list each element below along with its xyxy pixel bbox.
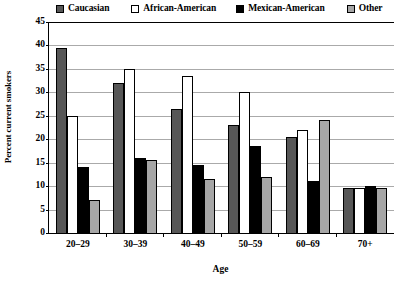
bar-group: 50–59 [222, 22, 280, 233]
legend-label: Caucasian [68, 4, 109, 14]
bar [376, 188, 387, 233]
legend-label: Mexican-American [248, 4, 324, 14]
x-tick-mark [221, 233, 222, 237]
y-tick-label: 30 [36, 88, 46, 98]
bar [297, 130, 308, 233]
y-tick-label: 40 [36, 41, 46, 51]
legend-entry-caucasian: Caucasian [56, 4, 109, 14]
bar [89, 200, 100, 233]
bar [239, 92, 250, 233]
y-tick-label: 45 [36, 17, 46, 27]
bar [193, 165, 204, 233]
bar [113, 83, 124, 233]
x-tick-mark [278, 233, 279, 237]
bar-group: 70+ [337, 22, 395, 233]
x-tick-label: 30–39 [123, 239, 147, 249]
legend-entry-other: Other [347, 4, 383, 14]
y-tick-label: 20 [36, 134, 46, 144]
bar-group: 30–39 [107, 22, 165, 233]
bar [365, 186, 376, 233]
x-tick-label: 60–69 [296, 239, 320, 249]
bar [228, 125, 239, 233]
bar [286, 137, 297, 233]
bar-group: 20–29 [49, 22, 107, 233]
legend-swatch-icon [56, 5, 64, 13]
y-tick-label: 10 [36, 181, 46, 191]
bar [67, 116, 78, 233]
x-tick-mark [106, 233, 107, 237]
bar [204, 179, 215, 233]
legend-swatch-icon [347, 5, 355, 13]
bar [78, 167, 89, 233]
plot-area: 051015202530354045 20–2930–3940–4950–596… [48, 22, 394, 234]
bar [354, 188, 365, 233]
bar [124, 69, 135, 233]
legend-swatch-icon [131, 5, 139, 13]
bar [182, 76, 193, 233]
x-tick-label: 70+ [358, 239, 373, 249]
x-axis-title: Age [48, 264, 393, 274]
y-tick-label: 5 [40, 205, 45, 215]
bar [319, 120, 330, 233]
x-tick-label: 40–49 [181, 239, 205, 249]
legend-entry-mexican-american: Mexican-American [236, 4, 324, 14]
y-tick-label: 35 [36, 64, 46, 74]
chart-legend: CaucasianAfrican-AmericanMexican-America… [56, 1, 396, 17]
bar [250, 146, 261, 233]
bar [56, 48, 67, 233]
bar [146, 160, 157, 233]
y-axis-title: Percent current smokers [0, 0, 16, 233]
x-tick-mark [336, 233, 337, 237]
bar-groups: 20–2930–3940–4950–5960–6970+ [49, 22, 394, 233]
bar-group: 40–49 [164, 22, 222, 233]
legend-label: African-American [143, 4, 216, 14]
legend-label: Other [359, 4, 383, 14]
y-tick-label: 15 [36, 158, 46, 168]
bar-group: 60–69 [279, 22, 337, 233]
y-axis-title-text: Percent current smokers [3, 70, 13, 162]
y-tick-label: 0 [40, 228, 45, 238]
x-tick-label: 50–59 [238, 239, 262, 249]
bar [343, 188, 354, 233]
legend-swatch-icon [236, 5, 244, 13]
x-tick-label: 20–29 [66, 239, 90, 249]
bar [261, 177, 272, 233]
legend-entry-african-american: African-American [131, 4, 216, 14]
y-tick-mark [46, 233, 49, 234]
y-tick-label: 25 [36, 111, 46, 121]
bar [135, 158, 146, 233]
x-tick-mark [163, 233, 164, 237]
bar [308, 181, 319, 233]
chart-figure: CaucasianAfrican-AmericanMexican-America… [0, 0, 401, 286]
bar [171, 109, 182, 233]
